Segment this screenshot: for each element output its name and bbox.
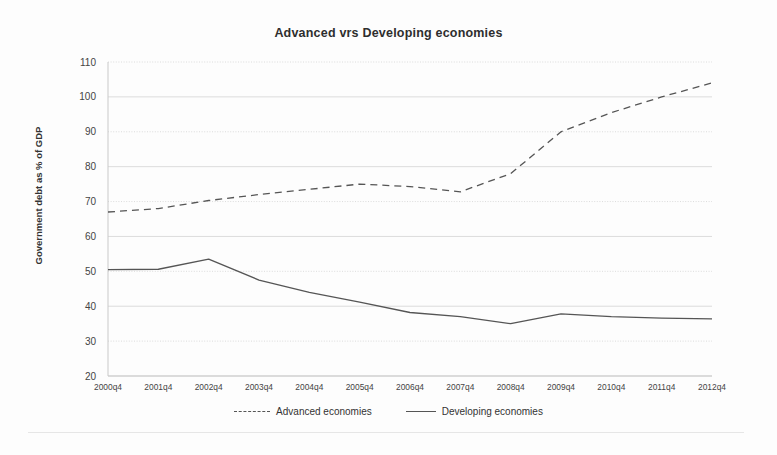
y-tick-label: 20 [85, 371, 97, 382]
series-line-developing-economies [108, 259, 712, 324]
x-tick-label: 2001q4 [144, 382, 172, 392]
legend-label-advanced: Advanced economies [276, 406, 372, 417]
x-tick-label: 2008q4 [497, 382, 525, 392]
x-tick-labels: 2000q42001q42002q42003q42004q42005q42006… [94, 382, 726, 392]
y-tick-label: 40 [85, 301, 97, 312]
x-tick-label: 2006q4 [396, 382, 424, 392]
x-tick-label: 2005q4 [346, 382, 374, 392]
y-tick-label: 90 [85, 126, 97, 137]
x-tick-label: 2012q4 [698, 382, 726, 392]
y-tick-label: 60 [85, 231, 97, 242]
legend-item-advanced: Advanced economies [234, 406, 372, 417]
y-tick-label: 100 [79, 91, 96, 102]
series-lines [108, 83, 712, 324]
series-line-advanced-economies [108, 83, 712, 212]
gridlines [108, 62, 712, 376]
x-tick-label: 2009q4 [547, 382, 575, 392]
footer-divider [28, 432, 744, 433]
chart-legend: Advanced economies Developing economies [0, 406, 777, 417]
chart-figure: Advanced vrs Developing economies Govern… [0, 0, 777, 455]
x-tick-label: 2003q4 [245, 382, 273, 392]
axis-frame [108, 62, 712, 376]
legend-item-developing: Developing economies [406, 406, 543, 417]
x-tick-label: 2010q4 [597, 382, 625, 392]
y-tick-labels: 2030405060708090100110 [79, 57, 96, 382]
y-tick-label: 110 [80, 57, 96, 68]
y-tick-label: 70 [85, 196, 97, 207]
x-tick-label: 2007q4 [446, 382, 474, 392]
legend-label-developing: Developing economies [442, 406, 543, 417]
x-tick-label: 2002q4 [195, 382, 223, 392]
y-tick-label: 80 [85, 161, 97, 172]
chart-plot: 2030405060708090100110 2000q42001q42002q… [0, 0, 777, 455]
x-tick-label: 2004q4 [295, 382, 323, 392]
y-tick-label: 50 [85, 266, 97, 277]
y-tick-label: 30 [85, 336, 97, 347]
x-tick-label: 2011q4 [648, 382, 676, 392]
dashed-line-icon [234, 411, 270, 412]
x-tick-label: 2000q4 [94, 382, 122, 392]
solid-line-icon [406, 411, 436, 412]
